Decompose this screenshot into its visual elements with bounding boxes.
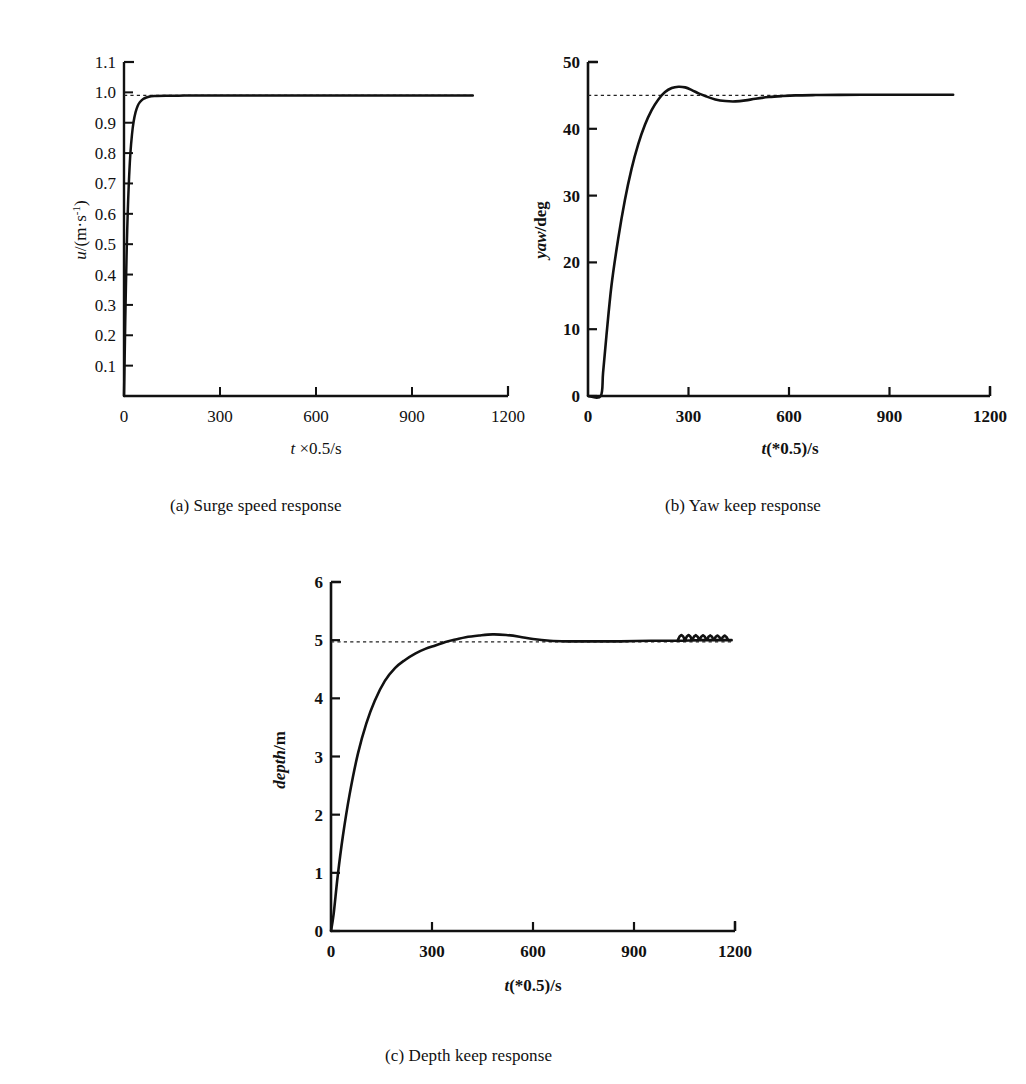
tick-label: 30	[563, 187, 580, 206]
tick-label: 1.1	[95, 53, 116, 72]
figure-root: 0.10.20.30.40.50.60.70.80.91.01.1 030060…	[0, 0, 1026, 1084]
x-axis-rest-depth: (*0.5)/s	[509, 976, 562, 995]
depth-keep-chart: 0123456 03006009001200 depth/m t(*0.5)/s	[255, 555, 785, 1015]
tick-label: 0.1	[95, 357, 116, 376]
x-tick-group-yaw: 03006009001200	[584, 387, 1007, 426]
y-axis-title-depth: depth/m	[270, 731, 289, 789]
data-curve-surge	[124, 95, 473, 396]
x-axis-title-depth: t(*0.5)/s	[504, 976, 562, 995]
tick-label: 0.8	[95, 144, 116, 163]
tick-label: 0	[327, 942, 336, 961]
y-tick-group-yaw: 01020304050	[563, 53, 597, 406]
tick-label: 50	[563, 53, 580, 72]
x-tick-group-surge: 03006009001200	[120, 387, 525, 426]
tick-label: 1200	[973, 407, 1007, 426]
tick-label: 0.5	[95, 235, 116, 254]
tick-label: 20	[563, 253, 580, 272]
tick-label: 600	[520, 942, 546, 961]
tick-label: 0.4	[95, 266, 117, 285]
tick-label: 0	[584, 407, 593, 426]
y-axis-title-surge: u/(m·s-1)	[70, 200, 90, 259]
panel-surge-speed: 0.10.20.30.40.50.60.70.80.91.01.1 030060…	[40, 30, 540, 480]
surge-speed-chart: 0.10.20.30.40.50.60.70.80.91.01.1 030060…	[40, 30, 540, 480]
x-axis-rest-yaw: (*0.5)/s	[766, 439, 819, 458]
tick-label: 900	[621, 942, 647, 961]
axes-yaw	[588, 62, 990, 396]
y-axis-var-surge: u	[71, 251, 90, 260]
tick-label: 300	[419, 942, 445, 961]
tick-label: 1	[315, 864, 324, 883]
tick-label: 4	[315, 689, 324, 708]
axes-depth	[331, 582, 735, 931]
y-axis-unit-yaw: /deg	[531, 201, 550, 233]
tick-label: 0.6	[95, 205, 116, 224]
tick-label: 900	[399, 407, 425, 426]
tick-label: 0.3	[95, 296, 116, 315]
tick-label: 300	[676, 407, 702, 426]
data-curve-yaw	[588, 87, 953, 398]
tick-label: 0	[120, 407, 129, 426]
tick-label: 3	[315, 748, 324, 767]
x-axis-title-surge: t ×0.5/s	[290, 439, 341, 458]
tick-label: 2	[315, 806, 324, 825]
caption-depth-keep: (c) Depth keep response	[385, 1046, 552, 1066]
tick-label: 0	[315, 922, 324, 941]
y-axis-var-yaw: yaw	[531, 231, 550, 261]
tick-label: 5	[315, 631, 324, 650]
tick-label: 600	[776, 407, 802, 426]
tick-label: 1200	[718, 942, 752, 961]
caption-yaw-keep: (b) Yaw keep response	[665, 496, 821, 516]
tick-label: 10	[563, 320, 580, 339]
y-axis-unit-surge: /(m·s	[71, 215, 90, 251]
tick-label: 0.9	[95, 114, 116, 133]
y-axis-unit-depth: /m	[270, 731, 289, 751]
x-axis-rest-surge: ×0.5/s	[295, 439, 341, 458]
tick-label: 0.2	[95, 326, 116, 345]
y-axis-title-yaw: yaw/deg	[531, 201, 550, 261]
y-axis-var-depth: depth	[270, 750, 289, 789]
x-axis-title-yaw: t(*0.5)/s	[761, 439, 819, 458]
tick-label: 0.7	[95, 174, 117, 193]
caption-surge-speed: (a) Surge speed response	[170, 496, 342, 516]
tick-label: 300	[207, 407, 233, 426]
y-axis-exp-surge: -1	[70, 206, 82, 215]
yaw-keep-chart: 01020304050 03006009001200 yaw/deg t(*0.…	[520, 30, 1020, 480]
axes-surge	[124, 62, 508, 396]
tick-label: 900	[877, 407, 903, 426]
tick-label: 6	[315, 573, 324, 592]
panel-yaw-keep: 01020304050 03006009001200 yaw/deg t(*0.…	[520, 30, 1020, 480]
tick-label: 40	[563, 120, 580, 139]
tick-label: 1.0	[95, 83, 116, 102]
x-tick-group-depth: 03006009001200	[327, 922, 752, 961]
tick-label: 600	[303, 407, 329, 426]
y-axis-close-surge: )	[71, 200, 90, 206]
panel-depth-keep: 0123456 03006009001200 depth/m t(*0.5)/s	[255, 555, 785, 1015]
tick-label: 0	[572, 387, 581, 406]
data-curve-depth	[331, 634, 732, 931]
